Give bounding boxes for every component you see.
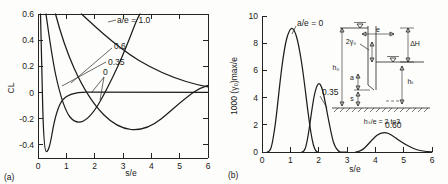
chart-panel-a: 0.6 0.4 0.2 0 -0.2 -0.4 0 1 2 3 4 5 6 s/… [0, 0, 224, 184]
x-tick-label: 1 [64, 161, 69, 171]
chart-a-curves [41, 14, 209, 152]
chart-b-x-tick-labels: 0 1 2 3 4 5 6 [260, 155, 435, 165]
inset-label-gate-opening: 2γ₀ [346, 38, 356, 46]
chart-b-y-tick-labels: 0 2 4 6 8 10 [249, 11, 259, 157]
inset-label-downstream-depth: hₛ [408, 78, 415, 85]
x-tick-label: 0 [36, 161, 41, 171]
inset-label-sill: a [350, 74, 354, 81]
y-tick-label: 8 [253, 38, 258, 48]
x-tick-label: 4 [149, 161, 154, 171]
chart-b-curves [267, 28, 432, 152]
curve-label-035: 0.35 [108, 57, 125, 67]
inset-caption: hₛ/e = 2 to3 [364, 118, 400, 125]
x-tick-label: 1 [288, 155, 293, 165]
x-tick-label: 4 [373, 155, 378, 165]
y-tick-label: 0 [253, 147, 258, 157]
x-tick-label: 0 [260, 155, 265, 165]
y-tick-label: 0.6 [22, 9, 34, 19]
y-tick-label: 10 [249, 11, 259, 21]
chart-a-axes [38, 14, 208, 158]
y-tick-label: -0.4 [19, 140, 34, 150]
x-axis-title: s/e [349, 164, 361, 174]
x-tick-label: 6 [430, 155, 435, 165]
water-surface-marker-downstream [390, 58, 396, 62]
y-tick-label: 0 [29, 88, 34, 98]
panel-tag: (b) [228, 170, 239, 180]
chart-a-y-tick-labels: 0.6 0.4 0.2 0 -0.2 -0.4 [19, 9, 34, 150]
y-tick-label: 6 [253, 65, 258, 75]
y-tick-label: 0.4 [22, 35, 34, 45]
x-tick-label: 2 [92, 161, 97, 171]
inset-label-upstream-depth: h₀ [333, 64, 340, 71]
chart-a-svg: 0.6 0.4 0.2 0 -0.2 -0.4 0 1 2 3 4 5 6 s/… [0, 0, 224, 184]
inset-label-gap: e [376, 26, 380, 33]
y-tick-label: -0.2 [19, 114, 34, 124]
inset-label-delta-head: ΔH [410, 40, 420, 47]
chart-a-x-tick-labels: 0 1 2 3 4 5 6 [36, 161, 211, 171]
x-tick-label: 5 [177, 161, 182, 171]
y-tick-label: 0.2 [22, 61, 34, 71]
curve-b-ae-0 [267, 28, 318, 152]
curve-label-ae-10: a/e = 1.0 [117, 15, 151, 25]
x-tick-label: 5 [401, 155, 406, 165]
figure-container: 0.6 0.4 0.2 0 -0.2 -0.4 0 1 2 3 4 5 6 s/… [0, 0, 448, 184]
panel-tag: (a) [4, 172, 15, 182]
curve-b-ae-060 [356, 133, 433, 152]
curve-label-06: 0.6 [114, 41, 126, 51]
chart-b-svg: 0 2 4 6 8 10 0 1 2 3 4 5 6 s/e 1000 (γ₀)… [224, 0, 448, 184]
x-tick-label: 6 [206, 161, 211, 171]
chart-panel-b: 0 2 4 6 8 10 0 1 2 3 4 5 6 s/e 1000 (γ₀)… [224, 0, 448, 184]
x-tick-label: 2 [316, 155, 321, 165]
bed-hatching [334, 108, 428, 112]
curve-label-035: 0.35 [322, 87, 339, 97]
inset-label-bed-clearance: s [350, 95, 354, 102]
y-tick-label: 2 [253, 120, 258, 130]
chart-a-curve-annotations: a/e = 1.0 0.6 0.35 0 [62, 15, 151, 100]
curve-label-0: 0 [103, 67, 108, 77]
y-axis-title: 1000 (γ₀)max/e [229, 57, 239, 115]
curve-a-ae-0 [41, 14, 209, 152]
water-surface-marker-upstream [357, 24, 363, 28]
curve-label-ae-0: a/e = 0 [297, 18, 324, 28]
y-axis-title: CL [6, 82, 16, 93]
x-axis-title: s/e [125, 168, 137, 178]
inset-diagram: e ΔH 2γ₀ h₀ [332, 23, 430, 126]
y-tick-label: 4 [253, 93, 258, 103]
